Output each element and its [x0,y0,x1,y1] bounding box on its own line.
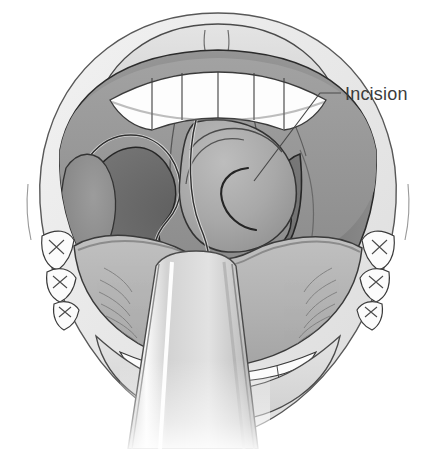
illustration-figure: Incision [0,0,436,449]
right-commissure-crease-icon [405,184,409,240]
molar-left-3 [54,302,79,330]
molars-right [357,231,394,330]
left-commissure-crease-icon [27,184,31,240]
molar-right-3 [357,302,382,330]
tonsil-incision-illustration: Incision [0,0,436,449]
incision-label: Incision [345,84,408,104]
depressor-fade-overlay-icon [120,360,270,449]
